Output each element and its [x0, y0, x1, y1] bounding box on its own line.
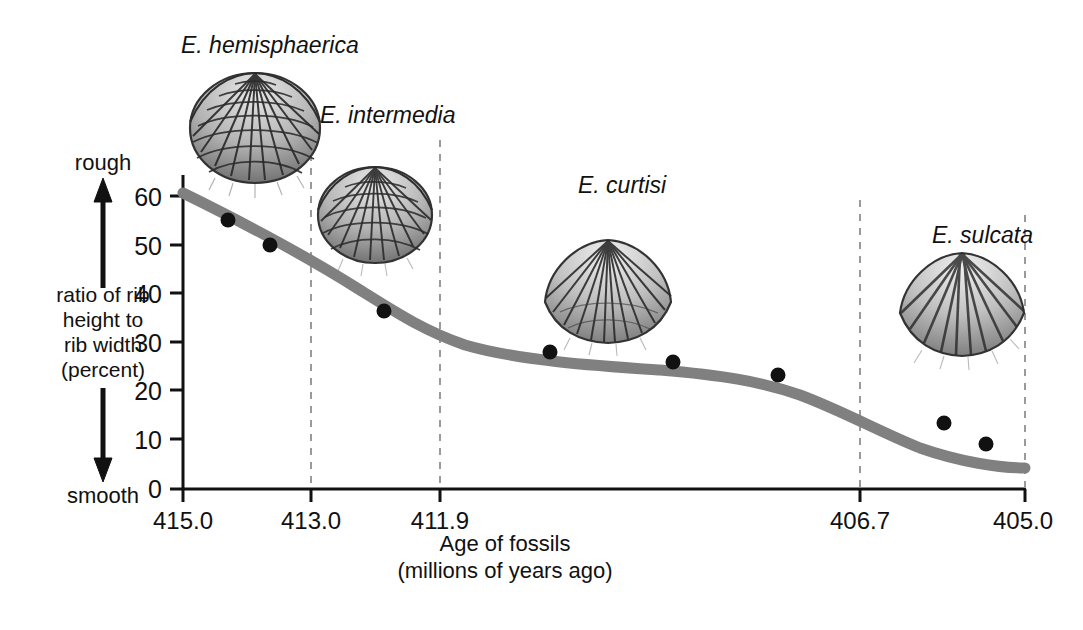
shell-illustration-e-curtisi — [545, 240, 671, 356]
x-tick-label-415-0: 415.0 — [123, 507, 243, 535]
y-tick-label-50: 50 — [118, 232, 162, 261]
y-axis-title-line-2: height to — [38, 307, 168, 332]
x-tick-label-406-7: 406.7 — [800, 507, 920, 535]
y-axis-bottom-label: smooth — [38, 483, 168, 509]
data-point — [979, 437, 994, 452]
x-axis-ticks — [183, 489, 1025, 502]
y-tick-label-10: 10 — [118, 426, 162, 455]
x-axis-title: Age of fossils (millions of years ago) — [325, 530, 685, 584]
species-label-e-intermedia: E. intermedia — [320, 102, 456, 129]
y-axis-ticks — [170, 196, 183, 489]
y-axis-title-line-1: ratio of rib — [38, 282, 168, 307]
species-label-e-sulcata: E. sulcata — [932, 222, 1033, 249]
x-tick-label-405-0: 405.0 — [963, 507, 1083, 535]
shell-illustration-e-hemisphaerica — [190, 73, 320, 198]
data-point — [771, 368, 786, 383]
data-point — [937, 416, 952, 431]
data-point — [221, 213, 236, 228]
y-axis-top-label: rough — [38, 150, 168, 176]
species-label-e-curtisi: E. curtisi — [578, 172, 666, 199]
shell-illustration-e-sulcata — [900, 253, 1024, 370]
y-axis-title-line-4: (percent) — [38, 357, 168, 382]
data-point — [543, 345, 558, 360]
rough-arrow-head — [94, 178, 112, 202]
data-point — [377, 304, 392, 319]
shell-illustration-e-intermedia — [318, 167, 432, 276]
y-axis-title-line-3: rib width — [38, 332, 168, 357]
species-label-e-hemisphaerica: E. hemisphaerica — [181, 32, 359, 59]
y-axis-title: ratio of rib height to rib width (percen… — [38, 282, 168, 382]
smooth-arrow-head — [94, 458, 112, 482]
data-point — [666, 355, 681, 370]
x-axis-title-line-2: (millions of years ago) — [325, 557, 685, 584]
x-axis-title-line-1: Age of fossils — [325, 530, 685, 557]
y-tick-label-60: 60 — [118, 183, 162, 212]
data-point — [263, 238, 278, 253]
chart-figure: 60 50 40 30 20 10 0 415.0 413.0 411.9 40… — [0, 0, 1083, 630]
